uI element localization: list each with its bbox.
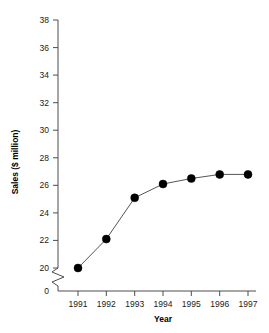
x-tick-label-1996: 1996	[210, 299, 229, 309]
y-tick-label-22: 22	[40, 235, 50, 245]
y-tick-label-30: 30	[40, 125, 50, 135]
data-point-1997	[244, 170, 252, 178]
data-point-1991	[74, 264, 82, 272]
y-tick-label-32: 32	[40, 98, 50, 108]
x-axis-title: Year	[154, 314, 173, 324]
y-tick-label-36: 36	[40, 43, 50, 53]
chart-canvas: 38 36 34 32 30 28 26 24 22 20 0 1991 199…	[0, 0, 269, 333]
data-point-1994	[159, 180, 167, 188]
y-axis-title: Sales ($ million)	[10, 129, 20, 194]
data-point-1993	[131, 194, 139, 202]
x-tick-label-1991: 1991	[69, 299, 88, 309]
x-axis-ticks	[78, 291, 248, 296]
y-tick-label-20: 20	[40, 263, 50, 273]
y-tick-label-38: 38	[40, 15, 50, 25]
sales-series-line	[78, 174, 248, 268]
x-tick-label-1992: 1992	[97, 299, 116, 309]
y-tick-label-24: 24	[40, 208, 50, 218]
x-tick-label-1994: 1994	[154, 299, 173, 309]
y-axis-break-icon	[52, 268, 64, 286]
sales-series-markers	[74, 170, 252, 272]
data-point-1995	[187, 175, 195, 183]
y-tick-label-0: 0	[44, 286, 49, 296]
y-tick-label-26: 26	[40, 180, 50, 190]
y-tick-label-34: 34	[40, 70, 50, 80]
y-tick-label-28: 28	[40, 153, 50, 163]
x-tick-label-1995: 1995	[182, 299, 201, 309]
data-point-1996	[216, 170, 224, 178]
data-point-1992	[102, 235, 110, 243]
x-tick-label-1993: 1993	[125, 299, 144, 309]
line-chart: 38 36 34 32 30 28 26 24 22 20 0 1991 199…	[0, 0, 269, 333]
x-tick-label-1997: 1997	[239, 299, 258, 309]
y-axis-ticks	[53, 20, 58, 268]
